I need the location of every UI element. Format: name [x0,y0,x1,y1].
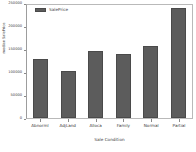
bar-partial [171,8,186,118]
x-axis-tick-mark [151,119,152,122]
bar-abnorml [33,59,48,118]
bar-slot [137,5,165,118]
bar-chart-figure: 050000100000150000200000250000 median Sa… [0,0,196,152]
bar-slot [82,5,110,118]
y-axis-tick-label: 250000 [8,0,22,7]
bar-slot [55,5,83,118]
x-axis-tick: AdjLand [54,119,82,133]
y-axis-tick-label: 200000 [8,23,22,30]
bar-slot [110,5,138,118]
x-axis-tick: Partial [165,119,193,133]
x-axis-tick-mark [96,119,97,122]
x-axis-tick-mark [123,119,124,122]
y-axis-tick-label: 0 [20,115,22,122]
x-axis-tick-mark [40,119,41,122]
x-axis-tick-label: Family [117,123,130,128]
y-axis-tick-label: 150000 [8,46,22,53]
bar-slot [165,5,193,118]
plot-area [26,4,193,119]
x-axis-tick-label: Partial [173,123,186,128]
x-axis-tick-label: Abnorml [31,123,48,128]
bar-alloca [88,51,103,118]
x-axis-tick: Normal [137,119,165,133]
bar-group [27,5,192,118]
x-axis-tick-label: Alloca [89,123,101,128]
x-axis-tick-label: AdjLand [60,123,76,128]
chart-legend: SalePrice [33,6,70,13]
x-axis-tick: Abnorml [26,119,54,133]
legend-swatch-saleprice [35,8,46,12]
x-axis-tick-mark [179,119,180,122]
bar-slot [27,5,55,118]
y-axis-title: median SalePrice [2,9,6,67]
x-axis-title: Sale Condition [26,137,193,142]
bar-normal [143,46,158,118]
x-axis-tick-label: Normal [144,123,159,128]
x-axis-tick: Family [109,119,137,133]
legend-label-saleprice: SalePrice [49,7,68,12]
x-axis: AbnormlAdjLandAllocaFamilyNormalPartial [26,119,193,133]
y-axis-tick-label: 50000 [11,92,22,99]
x-axis-tick: Alloca [82,119,110,133]
bar-family [116,54,131,118]
bar-adjland [61,71,76,118]
y-axis-tick-label: 100000 [8,69,22,76]
x-axis-tick-mark [68,119,69,122]
